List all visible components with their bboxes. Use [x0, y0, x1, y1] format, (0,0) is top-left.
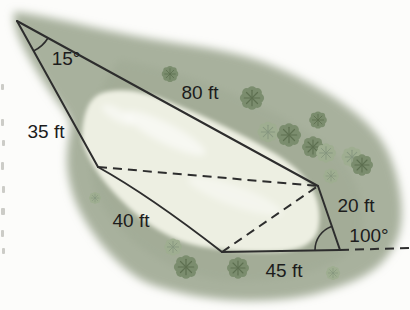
bush-icon — [227, 257, 249, 278]
bush-icon — [309, 111, 327, 128]
bush-icon — [277, 123, 301, 147]
bush-icon — [316, 143, 336, 162]
angle-label-bottom-right: 100° — [349, 225, 388, 246]
bush-icon — [351, 154, 373, 175]
side-label-40ft: 40 ft — [113, 210, 151, 231]
textbook-figure-page: 15° 35 ft 80 ft 40 ft 20 ft 100° 45 ft — [0, 0, 410, 310]
bush-icon — [162, 66, 179, 82]
bush-icon — [89, 192, 101, 204]
pond-survey-diagram: 15° 35 ft 80 ft 40 ft 20 ft 100° 45 ft — [0, 0, 410, 310]
angle-label-top-left: 15° — [52, 48, 81, 69]
bush-icon — [323, 169, 338, 184]
bush-icon — [258, 122, 279, 142]
bush-icon — [174, 255, 198, 279]
side-label-80ft: 80 ft — [182, 82, 220, 103]
bush-icon — [240, 86, 264, 110]
bush-icon — [326, 266, 340, 280]
bush-icon — [164, 238, 182, 255]
side-label-45ft: 45 ft — [266, 260, 304, 281]
side-label-35ft: 35 ft — [28, 121, 66, 142]
side-label-20ft: 20 ft — [338, 195, 376, 216]
